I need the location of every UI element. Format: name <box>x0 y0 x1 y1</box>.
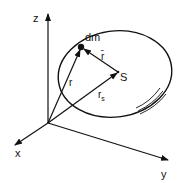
mass-element-label: dm <box>85 31 100 43</box>
center-of-mass-dot <box>117 71 120 74</box>
shading-hatch-marks <box>136 88 166 114</box>
mass-element-dot <box>78 44 84 50</box>
vector-r-s-label: rs <box>98 89 105 102</box>
y-axis <box>48 123 168 160</box>
vector-r-bar-label: r̄ <box>100 50 105 62</box>
vector-r-s-subscript: s <box>101 95 105 102</box>
center-of-mass-label: S <box>120 71 127 83</box>
z-axis-label: z <box>33 12 39 24</box>
vector-r-label: r <box>69 77 73 88</box>
x-axis <box>15 123 48 145</box>
y-axis-label: y <box>161 168 167 180</box>
x-axis-label: x <box>15 147 21 159</box>
diagram-svg: z x y dm S r rs r̄ <box>0 0 185 183</box>
rigid-body-diagram: z x y dm S r rs r̄ <box>0 0 185 183</box>
